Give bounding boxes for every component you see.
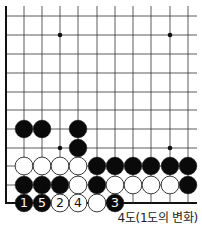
- black-stone: [15, 176, 33, 194]
- white-stone: [88, 194, 106, 212]
- white-stone: [124, 176, 142, 194]
- white-stone: [69, 176, 87, 194]
- move-number: 4: [74, 195, 82, 210]
- black-stone: [88, 157, 106, 175]
- move-number: 2: [56, 195, 64, 210]
- white-stone: [106, 176, 124, 194]
- black-stone: [15, 120, 33, 138]
- black-stone: [106, 157, 124, 175]
- white-stone-2: 2: [51, 194, 69, 212]
- star-point: [58, 146, 63, 151]
- diagram-caption: 4도(1도의 변화): [118, 208, 198, 225]
- white-stone: [15, 157, 33, 175]
- black-stone: [69, 120, 87, 138]
- black-stone: [124, 157, 142, 175]
- star-point: [168, 146, 173, 151]
- white-stone: [69, 157, 87, 175]
- black-stone: [51, 176, 69, 194]
- white-stone: [51, 157, 69, 175]
- white-stone: [161, 176, 179, 194]
- black-stone: [33, 176, 51, 194]
- white-stone: [142, 176, 160, 194]
- black-stone-1: 1: [15, 194, 33, 212]
- black-stone: [142, 157, 160, 175]
- move-number: 5: [38, 195, 46, 210]
- black-stone: [161, 157, 179, 175]
- star-point: [58, 33, 63, 38]
- white-stone: [33, 157, 51, 175]
- white-stone-4: 4: [69, 194, 87, 212]
- black-stone: [179, 176, 197, 194]
- black-stone-5: 5: [33, 194, 51, 212]
- star-point: [168, 33, 173, 38]
- black-stone: [179, 157, 197, 175]
- black-stone: [33, 120, 51, 138]
- go-board: 15243: [0, 0, 202, 226]
- black-stone: [69, 139, 87, 157]
- black-stone: [88, 176, 106, 194]
- move-number: 1: [20, 195, 28, 210]
